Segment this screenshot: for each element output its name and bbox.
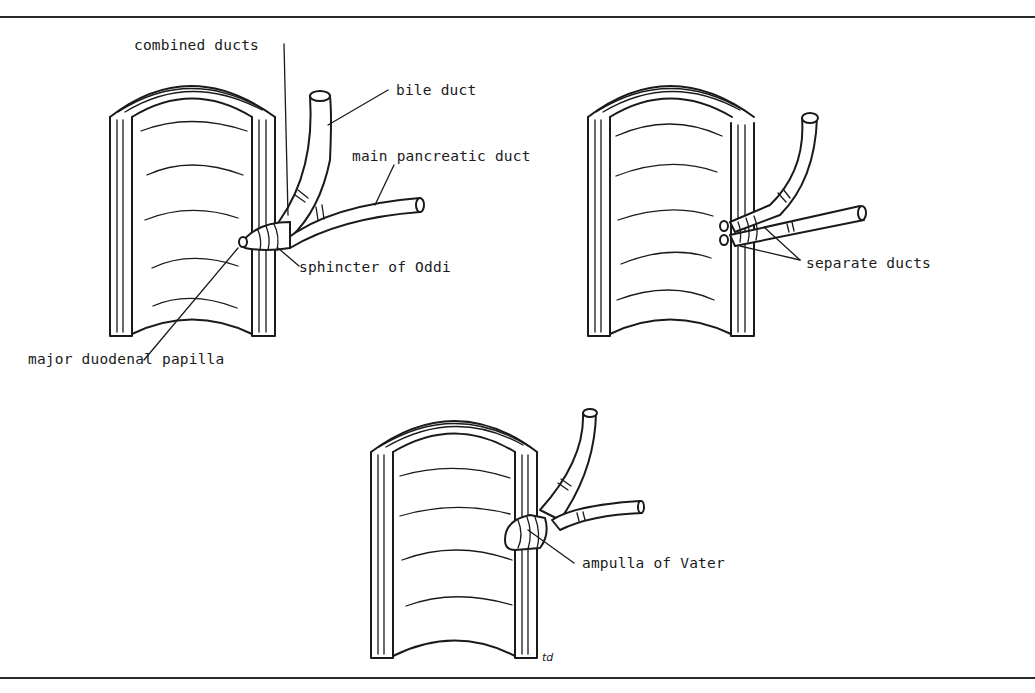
duodenum-section-separate: [588, 86, 866, 336]
duodenum-section-combined: [110, 44, 424, 360]
label-separate-ducts: separate ducts: [806, 255, 931, 271]
label-sphincter-of-oddi: sphincter of Oddi: [299, 259, 451, 275]
label-ampulla-of-vater: ampulla of Vater: [582, 555, 725, 571]
artist-signature: td: [542, 651, 553, 664]
label-major-duodenal-papilla: major duodenal papilla: [28, 351, 224, 367]
label-bile-duct: bile duct: [396, 82, 476, 98]
duct-anatomy-illustration: [0, 0, 1035, 693]
duodenum-section-ampulla: [371, 409, 644, 658]
label-main-pancreatic-duct: main pancreatic duct: [352, 148, 531, 164]
label-combined-ducts: combined ducts: [134, 37, 259, 53]
